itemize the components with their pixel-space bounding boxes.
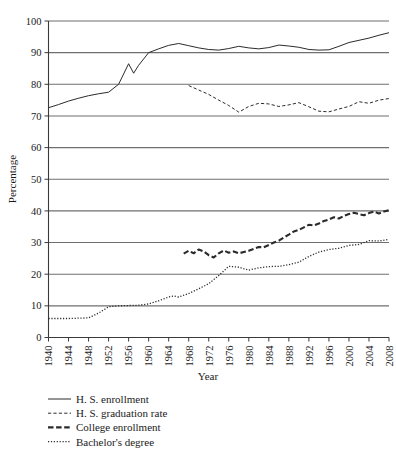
y-axis: 0102030405060708090100 <box>26 16 49 344</box>
line-chart: 0102030405060708090100 19401944194819521… <box>0 0 396 451</box>
x-tick-label: 1940 <box>43 346 54 367</box>
series-line <box>184 210 389 257</box>
y-tick-label: 90 <box>31 47 42 58</box>
x-axis: 1940194419481952195619601964196819721976… <box>43 338 395 367</box>
y-tick-label: 60 <box>31 142 42 153</box>
x-tick-label: 1992 <box>304 346 315 367</box>
y-tick-label: 40 <box>31 206 42 217</box>
x-tick-label: 1968 <box>184 346 195 367</box>
x-axis-title: Year <box>198 370 219 382</box>
x-tick-label: 1984 <box>264 345 275 367</box>
y-tick-label: 70 <box>31 111 42 122</box>
x-tick-label: 1976 <box>224 346 235 367</box>
x-tick-label: 1988 <box>284 346 295 367</box>
y-tick-label: 80 <box>31 79 42 90</box>
legend-label: Bachelor's degree <box>76 436 154 448</box>
x-tick-label: 1944 <box>63 345 74 367</box>
x-tick-label: 1952 <box>103 346 114 367</box>
legend: H. S. enrollmentH. S. graduation rateCol… <box>48 393 167 448</box>
x-tick-label: 2008 <box>384 346 395 367</box>
y-tick-label: 30 <box>31 237 42 248</box>
x-tick-label: 1972 <box>204 346 215 367</box>
y-tick-label: 20 <box>31 269 42 280</box>
x-tick-label: 1980 <box>244 346 255 367</box>
y-tick-label: 100 <box>26 16 42 27</box>
gridlines <box>49 21 390 306</box>
x-tick-label: 2004 <box>364 345 375 367</box>
x-tick-label: 1964 <box>163 345 174 367</box>
legend-label: H. S. enrollment <box>76 393 149 405</box>
x-tick-label: 2000 <box>344 346 355 367</box>
x-tick-label: 1948 <box>83 346 94 367</box>
y-tick-label: 50 <box>31 174 42 185</box>
series-line <box>49 239 390 318</box>
y-tick-label: 10 <box>31 300 42 311</box>
plot-series <box>49 33 390 319</box>
legend-label: College enrollment <box>76 421 161 433</box>
y-axis-title: Percentage <box>6 155 18 203</box>
legend-label: H. S. graduation rate <box>76 407 167 419</box>
y-tick-label: 0 <box>36 332 41 343</box>
x-tick-label: 1996 <box>324 346 335 367</box>
series-line <box>189 86 389 113</box>
x-tick-label: 1956 <box>123 346 134 367</box>
series-line <box>49 33 390 108</box>
x-tick-label: 1960 <box>143 346 154 367</box>
